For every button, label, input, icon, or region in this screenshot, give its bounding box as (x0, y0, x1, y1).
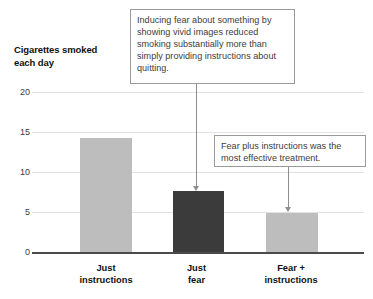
bar-just-instructions[interactable] (80, 138, 132, 252)
best-treatment-callout: Fear plus instructions was the most effe… (214, 135, 366, 167)
gridline-20 (32, 92, 364, 93)
y-tick-label-0: 0 (4, 247, 30, 257)
plot-area (32, 88, 364, 254)
x-label-fear-plus-instructions-line-2: instructions (232, 274, 350, 286)
x-label-fear-plus-instructions: Fear + instructions (232, 262, 350, 286)
fear-effect-callout: Inducing fear about something by showing… (130, 9, 295, 84)
gridline-15 (32, 132, 364, 133)
y-tick-label-15: 15 (4, 127, 30, 137)
x-axis-line (32, 252, 364, 254)
y-tick-label-5: 5 (4, 207, 30, 217)
fear-effect-callout-connector (196, 84, 197, 187)
bar-fear-plus-instructions[interactable] (266, 213, 318, 252)
fear-effect-callout-arrowhead (193, 186, 199, 191)
bar-chart: Cigarettes smoked each day 20 15 10 5 0 … (0, 0, 373, 299)
best-treatment-callout-connector (288, 167, 289, 208)
y-tick-label-20: 20 (4, 87, 30, 97)
fear-effect-callout-text: Inducing fear about something by showing… (137, 15, 276, 73)
best-treatment-callout-arrowhead (285, 207, 291, 212)
x-label-fear-plus-instructions-line-1: Fear + (232, 262, 350, 274)
bar-just-fear[interactable] (173, 191, 224, 252)
best-treatment-callout-text: Fear plus instructions was the most effe… (221, 141, 341, 163)
y-tick-label-10: 10 (4, 167, 30, 177)
